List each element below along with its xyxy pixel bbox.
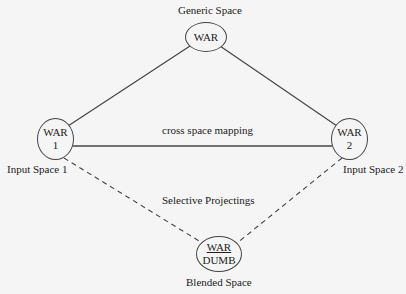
- generic-space-caption: Generic Space: [178, 4, 242, 16]
- blend-node-line1: WAR: [207, 241, 231, 254]
- input2-node-line1: WAR: [337, 126, 361, 139]
- input1-node-line2: 1: [53, 139, 59, 152]
- input-space-1-node: WAR 1: [37, 118, 74, 160]
- input-space-1-caption: Input Space 1: [7, 163, 67, 175]
- generic-node-text: WAR: [194, 31, 218, 44]
- input-space-2-node: WAR 2: [331, 118, 368, 160]
- blend-node-line2: DUMB: [202, 254, 235, 267]
- edge-generic-input2: [220, 46, 337, 126]
- edge-generic-input1: [68, 46, 190, 126]
- cross-space-mapping-label: cross space mapping: [162, 124, 253, 136]
- input-space-2-caption: Input Space 2: [343, 163, 403, 175]
- blended-space-caption: Blended Space: [186, 276, 252, 288]
- selective-projectings-label: Selective Projectings: [162, 194, 255, 206]
- blended-space-node: WAR DUMB: [196, 236, 242, 272]
- generic-space-node: WAR: [185, 22, 227, 52]
- input2-node-line2: 2: [347, 139, 353, 152]
- input1-node-line1: WAR: [43, 126, 67, 139]
